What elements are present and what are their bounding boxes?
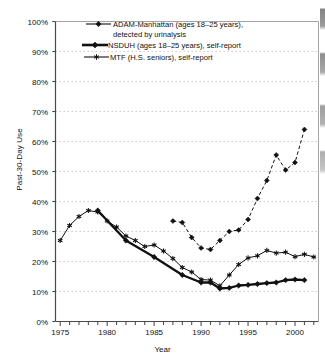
legend-markers — [82, 21, 111, 60]
data-point — [274, 153, 279, 158]
x-axis-minor-ticks — [60, 322, 314, 327]
data-series-layer — [58, 127, 316, 291]
data-point — [255, 281, 260, 286]
series-line-2 — [60, 211, 314, 286]
data-point — [170, 219, 175, 224]
legend-label-nsduh: NSDUH (ages 18–25 years), self-report — [108, 41, 241, 50]
data-point — [292, 277, 297, 282]
data-point — [245, 282, 250, 287]
legend-label-mtf: MTF (H.S. seniors), self-report — [110, 53, 213, 62]
data-point — [264, 280, 269, 285]
legend-marker — [92, 42, 98, 48]
gridlines — [56, 22, 319, 292]
legend-sample — [86, 21, 111, 26]
data-point — [180, 220, 185, 225]
legend-sample — [84, 54, 109, 60]
legend-label-adam-line2: detected by urinalysis — [113, 30, 186, 39]
series-0 — [170, 127, 306, 252]
data-point — [199, 246, 204, 251]
data-point — [283, 277, 288, 282]
data-point — [133, 238, 138, 243]
data-point — [302, 127, 307, 132]
data-point — [302, 277, 307, 282]
chart-container: Past-30-Day Use Year 0%10%20%30%40%50%60… — [0, 0, 325, 362]
data-point — [274, 280, 279, 285]
data-point — [227, 229, 232, 234]
data-point — [264, 178, 269, 183]
data-point — [246, 217, 251, 222]
legend-sample — [82, 42, 108, 48]
data-point — [255, 196, 260, 201]
legend-marker — [96, 21, 101, 26]
scan-edge-artifact — [320, 0, 325, 362]
data-point — [227, 285, 232, 290]
legend-label-adam-line1: ADAM-Manhattan (ages 18–25 years), — [113, 20, 243, 29]
data-point — [236, 283, 241, 288]
